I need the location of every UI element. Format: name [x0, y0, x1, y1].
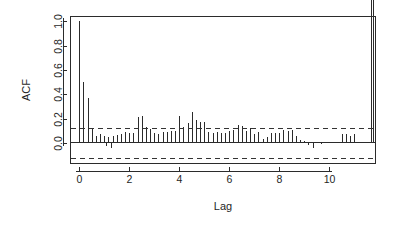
acf-plot-container: 0246810 0.00.20.40.60.81.0 ACFLag	[0, 0, 394, 230]
x-axis-tick-label: 8	[277, 173, 283, 185]
x-axis-tick-label: 6	[227, 173, 233, 185]
y-axis-group: 0.00.20.40.60.81.0	[52, 14, 67, 151]
y-axis-tick-label: 0.6	[52, 63, 64, 78]
x-axis-tick-label: 2	[127, 173, 133, 185]
y-axis-tick-label: 0.4	[52, 87, 64, 102]
acf-chart-svg: 0246810 0.00.20.40.60.81.0 ACFLag	[0, 0, 394, 230]
y-axis-title: ACF	[20, 79, 32, 101]
y-axis-tick-label: 1.0	[52, 14, 64, 29]
x-axis-tick-label: 4	[177, 173, 183, 185]
x-axis-tick-label: 10	[324, 173, 336, 185]
confidence-bound-lines-group	[71, 129, 376, 159]
plot-frame-group	[71, 17, 376, 164]
y-axis-tick-label: 0.8	[52, 39, 64, 54]
chart-spikes-group	[80, 0, 374, 148]
y-axis-tick-label: 0.2	[52, 112, 64, 127]
x-axis-tick-label: 0	[77, 173, 83, 185]
x-axis-title: Lag	[214, 200, 232, 212]
plot-frame	[71, 17, 376, 164]
x-axis-group: 0246810	[76, 167, 335, 185]
y-axis-tick-label: 0.0	[52, 136, 64, 151]
